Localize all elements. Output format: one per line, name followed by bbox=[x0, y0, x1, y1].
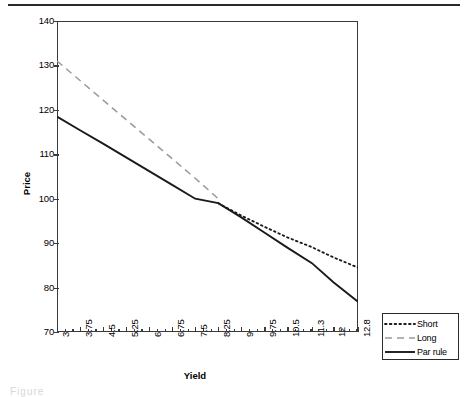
x-tick-mark-minor bbox=[303, 329, 304, 332]
x-tick-mark-minor bbox=[111, 329, 112, 332]
x-tick-mark-minor bbox=[88, 329, 89, 332]
x-tick-mark bbox=[57, 327, 58, 332]
x-tick-mark-minor bbox=[65, 329, 66, 332]
x-tick-mark bbox=[287, 327, 288, 332]
x-tick-label: 3 bbox=[61, 332, 71, 337]
x-tick-mark-minor bbox=[234, 329, 235, 332]
x-tick-mark bbox=[172, 327, 173, 332]
x-tick-mark-minor bbox=[141, 329, 142, 332]
x-tick-mark-minor bbox=[310, 329, 311, 332]
x-tick-mark-minor bbox=[211, 329, 212, 332]
x-tick-mark-minor bbox=[249, 329, 250, 332]
legend-item-short[interactable]: Short bbox=[383, 317, 458, 331]
x-tick-mark-minor bbox=[272, 329, 273, 332]
legend-item-long[interactable]: Long bbox=[383, 331, 458, 345]
x-tick-mark-minor bbox=[295, 329, 296, 332]
caption-remnant: Figure bbox=[10, 386, 250, 397]
x-tick-mark-minor bbox=[226, 329, 227, 332]
x-tick-mark bbox=[358, 327, 359, 332]
x-tick-mark-minor bbox=[188, 329, 189, 332]
x-tick-mark bbox=[195, 327, 196, 332]
x-tick-mark-minor bbox=[165, 329, 166, 332]
x-tick-mark-minor bbox=[349, 329, 350, 332]
x-tick-mark-minor bbox=[118, 329, 119, 332]
x-tick-mark-minor bbox=[341, 329, 342, 332]
x-tick-mark-minor bbox=[203, 329, 204, 332]
x-tick-mark-minor bbox=[318, 329, 319, 332]
x-tick-mark-minor bbox=[157, 329, 158, 332]
legend-swatch-icon bbox=[383, 333, 417, 343]
x-tick-mark bbox=[264, 327, 265, 332]
x-tick-mark-minor bbox=[257, 329, 258, 332]
y-axis-title: Price bbox=[21, 154, 32, 214]
legend-swatch-icon bbox=[383, 347, 417, 357]
x-tick-mark bbox=[126, 327, 127, 332]
x-tick-label: 12.8 bbox=[362, 319, 372, 337]
x-tick-mark-minor bbox=[95, 329, 96, 332]
x-tick-mark-minor bbox=[180, 329, 181, 332]
legend-swatch-icon bbox=[383, 319, 417, 329]
x-tick-mark-minor bbox=[280, 329, 281, 332]
x-tick-label: 6 bbox=[153, 332, 163, 337]
x-tick-mark bbox=[149, 327, 150, 332]
x-tick-mark bbox=[80, 327, 81, 332]
x-tick-mark-minor bbox=[356, 329, 357, 332]
legend-label: Par rule bbox=[417, 348, 447, 357]
x-tick-mark bbox=[103, 327, 104, 332]
x-tick-mark-minor bbox=[326, 329, 327, 332]
legend-label: Short bbox=[417, 320, 438, 329]
x-tick-label: 9 bbox=[245, 332, 255, 337]
x-tick-mark-minor bbox=[72, 329, 73, 332]
x-axis-title: Yield bbox=[150, 370, 240, 381]
chart-legend: ShortLongPar rule bbox=[382, 313, 459, 360]
x-tick-mark-minor bbox=[134, 329, 135, 332]
x-tick-mark bbox=[333, 327, 334, 332]
x-tick-mark bbox=[218, 327, 219, 332]
x-tick-mark bbox=[241, 327, 242, 332]
x-tick-mark bbox=[312, 327, 313, 332]
legend-label: Long bbox=[417, 334, 436, 343]
legend-item-par-rule[interactable]: Par rule bbox=[383, 345, 458, 359]
